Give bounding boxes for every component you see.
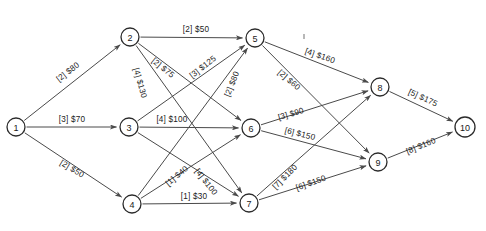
node-5[interactable]: 5 bbox=[246, 29, 264, 47]
edge-label-1-3: [3] $70 bbox=[59, 115, 86, 124]
edge-1-to-2 bbox=[24, 45, 120, 121]
edges-layer bbox=[24, 37, 453, 204]
edge-label-2-7: [4] $130 bbox=[131, 67, 148, 100]
edge-4-to-7 bbox=[142, 203, 236, 204]
edge-label-6-8: [3] $90 bbox=[277, 106, 305, 122]
edge-label-8-10: [5] $175 bbox=[407, 87, 439, 108]
node-7[interactable]: 7 bbox=[240, 194, 258, 212]
edge-label-5-8: [4] $160 bbox=[304, 47, 337, 66]
node-label-6: 6 bbox=[248, 124, 253, 134]
node-label-9: 9 bbox=[375, 158, 380, 168]
edge-6-to-8 bbox=[261, 91, 368, 125]
node-2[interactable]: 2 bbox=[121, 28, 139, 46]
node-8[interactable]: 8 bbox=[371, 78, 389, 96]
edge-label-2-5: [2] $50 bbox=[183, 25, 210, 34]
node-label-8: 8 bbox=[377, 83, 382, 93]
edge-2-to-5 bbox=[140, 37, 242, 38]
edge-label-4-7: [1] $30 bbox=[181, 192, 208, 201]
node-label-2: 2 bbox=[127, 33, 132, 43]
node-label-4: 4 bbox=[129, 200, 134, 210]
edge-label-7-9: [6] $150 bbox=[295, 174, 328, 193]
edge-label-9-10: [8] $160 bbox=[405, 136, 438, 156]
node-6[interactable]: 6 bbox=[242, 119, 260, 137]
node-1[interactable]: 1 bbox=[7, 118, 25, 136]
node-3[interactable]: 3 bbox=[120, 118, 138, 136]
edge-label-6-9: [6] $150 bbox=[284, 126, 317, 142]
edge-label-1-2: [2] $80 bbox=[55, 60, 82, 84]
node-label-5: 5 bbox=[252, 34, 257, 44]
node-label-3: 3 bbox=[126, 123, 131, 133]
edge-3-to-7 bbox=[138, 133, 239, 197]
network-graph-svg: 12345678910 [2] $80[3] $70[2] $50[2] $50… bbox=[0, 0, 486, 231]
network-diagram-canvas: 12345678910 [2] $80[3] $70[2] $50[2] $50… bbox=[0, 0, 486, 231]
edge-label-5-9: [2] $60 bbox=[276, 68, 302, 92]
node-4[interactable]: 4 bbox=[123, 195, 141, 213]
node-10[interactable]: 10 bbox=[455, 117, 475, 137]
node-label-10: 10 bbox=[460, 123, 470, 133]
node-9[interactable]: 9 bbox=[369, 153, 387, 171]
edge-label-4-5: [2] $80 bbox=[223, 70, 241, 98]
edge-label-2-6: [2] $75 bbox=[150, 56, 176, 80]
edge-label-3-6: [4] $100 bbox=[156, 115, 187, 124]
edge-label-1-4: [2] $50 bbox=[58, 158, 86, 179]
node-label-7: 7 bbox=[246, 199, 251, 209]
edge-label-4-6: [1] $40 bbox=[164, 164, 190, 188]
scan-artifact-speck bbox=[303, 34, 305, 39]
node-label-1: 1 bbox=[13, 123, 18, 133]
